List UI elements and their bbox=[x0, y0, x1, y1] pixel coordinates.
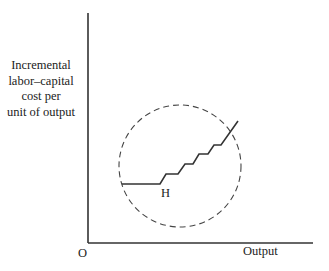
y-axis-label-line: Incremental bbox=[2, 58, 80, 74]
y-axis-label-line: labor–capital bbox=[2, 74, 80, 90]
x-axis-label: Output bbox=[243, 244, 278, 259]
y-axis-label-line: unit of output bbox=[2, 105, 80, 121]
y-axis-label-line: cost per bbox=[2, 89, 80, 105]
origin-label: O bbox=[78, 246, 87, 261]
diagram-canvas bbox=[0, 0, 329, 271]
y-axis-label: Incremental labor–capital cost per unit … bbox=[2, 58, 80, 120]
dashed-circle bbox=[119, 105, 241, 227]
point-h-label: H bbox=[161, 186, 170, 201]
stepped-cost-curve bbox=[122, 121, 238, 184]
